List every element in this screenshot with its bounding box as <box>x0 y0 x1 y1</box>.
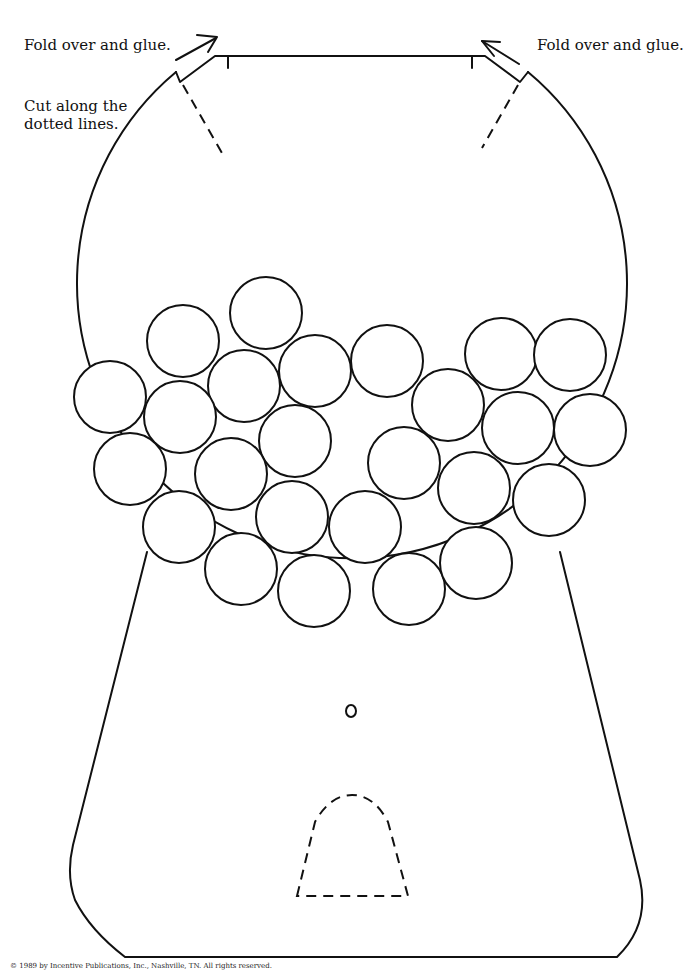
gumball <box>143 491 215 563</box>
fold-arrow-right-icon <box>482 41 519 64</box>
copyright-notice: © 1989 by Incentive Publications, Inc., … <box>10 962 272 971</box>
gumball <box>259 405 331 477</box>
gumball <box>230 277 302 349</box>
gumball <box>205 533 277 605</box>
gumball <box>554 394 626 466</box>
gumball <box>412 369 484 441</box>
coin-slot <box>346 705 356 717</box>
gumball <box>147 305 219 377</box>
gumball-machine-drawing <box>0 0 695 980</box>
gumball <box>465 318 537 390</box>
cut-line-right <box>482 85 518 148</box>
cut-line-left <box>183 85 222 153</box>
gumball <box>482 392 554 464</box>
gumball <box>74 361 146 433</box>
gumball <box>256 481 328 553</box>
gumball <box>208 350 280 422</box>
gumball <box>94 433 166 505</box>
gumball <box>279 335 351 407</box>
gumball <box>351 325 423 397</box>
fold-arrow-left-icon <box>176 35 217 60</box>
gumball <box>438 452 510 524</box>
gumball <box>278 555 350 627</box>
machine-base-outline <box>70 552 642 957</box>
gumball <box>373 553 445 625</box>
gumball <box>534 319 606 391</box>
gumball <box>368 427 440 499</box>
dispenser-door-cut-line <box>297 795 408 896</box>
gumball <box>329 491 401 563</box>
gumball <box>195 438 267 510</box>
gumball <box>440 527 512 599</box>
gumball <box>513 464 585 536</box>
gumballs <box>74 277 626 627</box>
